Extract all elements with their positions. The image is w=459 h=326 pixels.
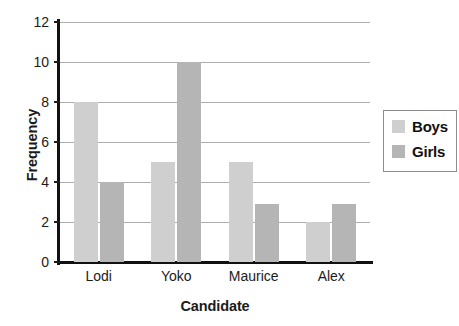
x-tick-label-alex: Alex (293, 268, 371, 284)
x-tick-label-lodi: Lodi (60, 268, 138, 284)
bar-lodi-boys (74, 102, 98, 262)
y-tick-mark (54, 181, 60, 183)
y-tick-label: 10 (15, 55, 49, 69)
bar-lodi-girls (100, 182, 124, 262)
legend-item-boys: Boys (392, 119, 448, 134)
y-tick-label: 4 (15, 175, 49, 189)
y-tick-mark (54, 141, 60, 143)
legend-label-boys: Boys (412, 119, 448, 134)
y-tick-mark (54, 221, 60, 223)
legend-item-girls: Girls (392, 144, 445, 159)
y-tick-label: 0 (15, 255, 49, 269)
bar-alex-girls (332, 204, 356, 262)
y-tick-label: 2 (15, 215, 49, 229)
y-tick-label: 6 (15, 135, 49, 149)
legend-swatch-girls (392, 145, 405, 158)
y-tick-label: 8 (15, 95, 49, 109)
bar-yoko-girls (177, 62, 201, 262)
bar-alex-boys (306, 222, 330, 262)
x-tick-label-maurice: Maurice (215, 268, 293, 284)
legend-swatch-boys (392, 120, 405, 133)
y-tick-label: 12 (15, 15, 49, 29)
bar-maurice-girls (255, 204, 279, 262)
bar-maurice-boys (229, 162, 253, 262)
gridline (60, 102, 370, 103)
gridline (60, 22, 370, 23)
y-tick-mark (54, 21, 60, 23)
gridline (60, 142, 370, 143)
gridline (60, 62, 370, 63)
bar-chart-figure: Frequency Candidate 024681012 LodiYokoMa… (0, 0, 459, 326)
plot-area (60, 22, 370, 262)
y-tick-mark (54, 261, 60, 263)
y-tick-mark (54, 101, 60, 103)
legend: Boys Girls (383, 110, 457, 172)
y-tick-mark (54, 61, 60, 63)
x-tick-label-yoko: Yoko (138, 268, 216, 284)
bar-yoko-boys (151, 162, 175, 262)
x-axis-title: Candidate (60, 298, 370, 314)
legend-label-girls: Girls (412, 144, 445, 159)
